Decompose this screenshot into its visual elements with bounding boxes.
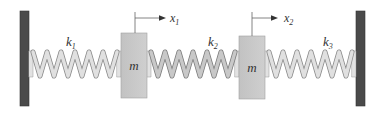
spring-mass-diagram: m m x1 x2 k1 k2 k3 [0,0,383,113]
mass-2: m [239,36,265,99]
right-wall [356,11,365,106]
displacement-arrow-x1: x1 [135,11,179,33]
mass-1: m [121,33,147,98]
spring-k2-label: k2 [208,34,218,51]
mass-1-label: m [129,58,138,73]
displacement-arrow-x2: x2 [252,11,293,36]
k2-subscript: 2 [214,42,218,51]
spring-k3 [265,51,356,77]
mass-2-label: m [247,60,256,75]
k3-subscript: 3 [328,42,333,51]
svg-text:x1: x1 [169,11,179,27]
spring-k2 [147,51,239,77]
x1-subscript: 1 [175,18,179,27]
x2-subscript: 2 [289,18,293,27]
arrowhead-icon [159,15,166,20]
spring-k1-label: k1 [66,34,76,51]
svg-text:x2: x2 [283,11,293,27]
k1-subscript: 1 [72,42,76,51]
arrowhead-icon [271,15,278,20]
spring-k1 [29,51,121,77]
left-wall [20,11,29,106]
spring-k3-label: k3 [323,34,333,51]
